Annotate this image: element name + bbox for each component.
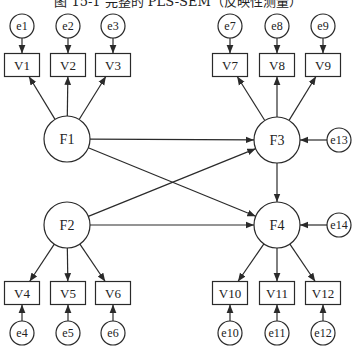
error-e14: e14 [327, 213, 351, 237]
indicator-v12: V12 [306, 282, 341, 305]
loading-arrow-f2-v6 [80, 244, 105, 281]
sem-diagram: 图 15-1 完整的 PLS-SEM（反映性测量） F1F2F3F4V1V2V3… [0, 0, 356, 349]
loading-arrow-f4-v10 [238, 244, 264, 282]
error-label: e4 [16, 326, 27, 340]
indicator-v8: V8 [260, 54, 295, 77]
error-label: e3 [107, 19, 118, 33]
latent-f4: F4 [254, 202, 300, 248]
indicator-label: V10 [219, 286, 241, 301]
edges-layer [22, 38, 327, 321]
error-label: e13 [330, 133, 347, 147]
error-e13: e13 [327, 128, 351, 152]
indicator-v4: V4 [5, 282, 40, 305]
latent-label: F2 [60, 218, 75, 233]
error-e9: e9 [311, 14, 335, 38]
error-label: e1 [16, 19, 27, 33]
latent-label: F3 [270, 133, 285, 148]
path-arrow-f1-f3 [90, 139, 254, 140]
error-e1: e1 [10, 14, 34, 38]
error-e2: e2 [56, 14, 80, 38]
loading-arrow-f2-v4 [30, 244, 55, 281]
indicator-v1: V1 [5, 54, 40, 77]
latent-f3: F3 [254, 117, 300, 163]
error-label: e14 [330, 218, 347, 232]
indicator-label: V7 [222, 58, 238, 73]
indicator-label: V5 [60, 286, 76, 301]
latent-label: F4 [270, 218, 285, 233]
loading-arrow-f4-v12 [290, 244, 315, 281]
error-label: e8 [271, 19, 282, 33]
indicator-v5: V5 [51, 282, 86, 305]
nodes-layer: F1F2F3F4V1V2V3V4V5V6V7V8V9V10V11V12e1e2e… [5, 14, 352, 345]
indicator-v6: V6 [96, 282, 131, 305]
error-label: e10 [221, 326, 238, 340]
error-e5: e5 [56, 321, 80, 345]
loading-arrow-f1-v1 [29, 77, 55, 120]
indicator-v3: V3 [96, 54, 131, 77]
error-label: e5 [62, 326, 73, 340]
indicator-label: V2 [60, 58, 76, 73]
indicator-v9: V9 [306, 54, 341, 77]
path-diagram-canvas: F1F2F3F4V1V2V3V4V5V6V7V8V9V10V11V12e1e2e… [0, 0, 356, 349]
indicator-label: V6 [105, 286, 121, 301]
indicator-label: V1 [14, 58, 30, 73]
indicator-v10: V10 [213, 282, 248, 305]
latent-label: F1 [60, 132, 75, 147]
error-e4: e4 [10, 321, 34, 345]
error-label: e12 [314, 326, 331, 340]
indicator-label: V12 [312, 286, 334, 301]
error-label: e2 [62, 19, 73, 33]
error-e6: e6 [101, 321, 125, 345]
indicator-v11: V11 [260, 282, 295, 305]
loading-arrow-f1-v2 [67, 77, 68, 117]
indicator-label: V11 [266, 286, 288, 301]
loading-arrow-f3-v7 [237, 77, 265, 121]
latent-f1: F1 [44, 116, 90, 162]
error-e11: e11 [265, 321, 289, 345]
loading-arrow-f3-v9 [289, 77, 316, 121]
error-label: e6 [107, 326, 118, 340]
error-e12: e12 [311, 321, 335, 345]
indicator-v7: V7 [213, 54, 248, 77]
error-e7: e7 [218, 14, 242, 38]
error-label: e7 [224, 19, 235, 33]
indicator-label: V3 [105, 58, 121, 73]
error-label: e11 [269, 326, 286, 340]
indicator-label: V8 [269, 58, 285, 73]
indicator-label: V4 [14, 286, 30, 301]
error-label: e9 [317, 19, 328, 33]
loading-arrow-f1-v3 [79, 77, 106, 120]
indicator-label: V9 [315, 58, 331, 73]
error-e10: e10 [218, 321, 242, 345]
error-e3: e3 [101, 14, 125, 38]
indicator-v2: V2 [51, 54, 86, 77]
error-e8: e8 [265, 14, 289, 38]
latent-f2: F2 [44, 202, 90, 248]
